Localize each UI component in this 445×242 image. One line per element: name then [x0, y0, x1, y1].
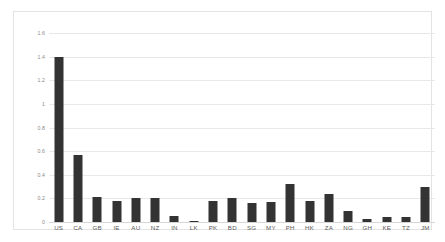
bar-IN[interactable] — [165, 33, 184, 222]
plot-area: 00.20.40.60.811.21.41.6 — [49, 33, 435, 222]
bar-rect — [189, 221, 198, 222]
bar-AU[interactable] — [126, 33, 145, 222]
x-tick-label-GB: GB — [93, 224, 102, 231]
x-tick-label-AU: AU — [131, 224, 140, 231]
y-tick-label: 0.2 — [37, 195, 45, 201]
bar-rect — [131, 198, 140, 222]
bar-HK[interactable] — [300, 33, 319, 222]
bar-rect — [382, 217, 391, 222]
bar-rect — [324, 194, 333, 222]
x-tick-label-SG: SG — [247, 224, 256, 231]
bar-rect — [54, 57, 63, 222]
y-tick-label: 1.4 — [37, 54, 45, 60]
bar-NG[interactable] — [339, 33, 358, 222]
bar-chart-figure: 00.20.40.60.811.21.41.6 USCAGBIEAUNZINLK… — [0, 0, 445, 242]
bar-TZ[interactable] — [396, 33, 415, 222]
bar-JM[interactable] — [416, 33, 435, 222]
bar-rect — [209, 201, 218, 222]
x-tick-label-US: US — [54, 224, 63, 231]
bar-rect — [421, 187, 430, 222]
bar-CA[interactable] — [68, 33, 87, 222]
x-tick-label-IE: IE — [113, 224, 119, 231]
bar-SG[interactable] — [242, 33, 261, 222]
bar-rect — [305, 201, 314, 222]
bar-rect — [247, 203, 256, 222]
bar-GH[interactable] — [358, 33, 377, 222]
x-tick-label-ZA: ZA — [325, 224, 333, 231]
bar-GB[interactable] — [88, 33, 107, 222]
chart-plot-frame: 00.20.40.60.811.21.41.6 USCAGBIEAUNZINLK… — [13, 11, 432, 230]
bar-PH[interactable] — [281, 33, 300, 222]
bar-rect — [286, 184, 295, 222]
bar-rect — [363, 219, 372, 222]
bar-LK[interactable] — [184, 33, 203, 222]
x-tick-label-PK: PK — [209, 224, 218, 231]
bar-rect — [344, 211, 353, 222]
y-tick-label: 1.2 — [37, 77, 45, 83]
bar-rect — [112, 201, 121, 222]
bars-layer — [49, 33, 435, 222]
bar-rect — [73, 155, 82, 222]
bar-BD[interactable] — [223, 33, 242, 222]
x-tick-label-JM: JM — [421, 224, 430, 231]
x-tick-label-NG: NG — [343, 224, 353, 231]
bar-rect — [151, 198, 160, 222]
x-tick-label-MY: MY — [266, 224, 276, 231]
y-tick-label: 0.8 — [37, 125, 45, 131]
x-tick-label-NZ: NZ — [151, 224, 160, 231]
bar-US[interactable] — [49, 33, 68, 222]
x-tick-label-PH: PH — [286, 224, 295, 231]
bar-ZA[interactable] — [319, 33, 338, 222]
bar-rect — [93, 197, 102, 222]
y-tick-label: 0.4 — [37, 172, 45, 178]
y-tick-label: 1 — [42, 101, 45, 107]
bar-rect — [266, 202, 275, 222]
x-tick-label-TZ: TZ — [402, 224, 410, 231]
x-tick-label-KE: KE — [382, 224, 391, 231]
bar-rect — [170, 216, 179, 222]
x-axis-tick-labels: USCAGBIEAUNZINLKPKBDSGMYPHHKZANGGHKETZJM — [49, 224, 435, 240]
x-tick-label-GH: GH — [363, 224, 373, 231]
x-tick-label-IN: IN — [171, 224, 178, 231]
y-tick-label: 1.6 — [37, 30, 45, 36]
x-tick-label-CA: CA — [73, 224, 82, 231]
bar-NZ[interactable] — [146, 33, 165, 222]
bar-KE[interactable] — [377, 33, 396, 222]
gridline-0: 0 — [49, 222, 435, 223]
y-tick-label: 0 — [42, 219, 45, 225]
x-tick-label-BD: BD — [228, 224, 237, 231]
bar-PK[interactable] — [203, 33, 222, 222]
bar-rect — [228, 198, 237, 222]
y-tick-label: 0.6 — [37, 148, 45, 154]
bar-rect — [402, 217, 411, 222]
bar-MY[interactable] — [261, 33, 280, 222]
x-tick-label-HK: HK — [305, 224, 314, 231]
x-tick-label-LK: LK — [190, 224, 198, 231]
bar-IE[interactable] — [107, 33, 126, 222]
